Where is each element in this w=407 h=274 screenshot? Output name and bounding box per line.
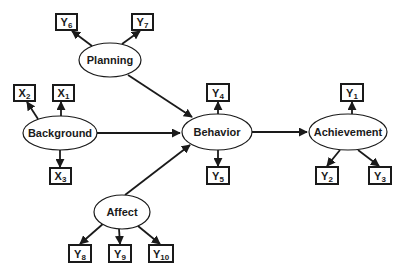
arrow-planning-to-y6 bbox=[72, 31, 92, 46]
arrow-achievement-to-y3 bbox=[358, 150, 379, 166]
indicator-node-y6: Y6 bbox=[56, 14, 77, 30]
latent-node-planning: Planning bbox=[79, 43, 141, 77]
latent-label: Background bbox=[28, 127, 92, 139]
latent-node-achievement: Achievement bbox=[309, 114, 387, 150]
indicator-node-y2: Y2 bbox=[316, 167, 338, 184]
indicator-node-y1: Y1 bbox=[341, 84, 363, 101]
arrow-affect-to-y8 bbox=[80, 223, 104, 244]
latent-variables-layer: PlanningBackgroundBehaviorAchievementAff… bbox=[23, 43, 387, 229]
latent-node-background: Background bbox=[23, 116, 97, 150]
indicator-node-y7: Y7 bbox=[132, 14, 153, 30]
arrow-background-to-x2 bbox=[27, 102, 38, 119]
sem-diagram: PlanningBackgroundBehaviorAchievementAff… bbox=[0, 0, 407, 274]
latent-label: Affect bbox=[106, 206, 138, 218]
indicator-node-x3: X3 bbox=[50, 168, 71, 184]
latent-node-behavior: Behavior bbox=[182, 114, 252, 150]
indicator-node-y3: Y3 bbox=[369, 167, 391, 184]
latent-label: Behavior bbox=[193, 126, 241, 138]
arrow-affect-to-behavior bbox=[125, 145, 190, 195]
latent-node-affect: Affect bbox=[94, 195, 150, 229]
arrow-affect-to-y9 bbox=[119, 229, 120, 244]
latent-label: Achievement bbox=[314, 126, 383, 138]
indicator-node-y4: Y4 bbox=[207, 84, 229, 101]
arrow-planning-to-behavior bbox=[128, 75, 192, 117]
indicator-node-x2: X2 bbox=[14, 85, 35, 101]
latent-label: Planning bbox=[87, 54, 133, 66]
indicator-node-y10: Y10 bbox=[149, 245, 173, 262]
arrow-planning-to-y7 bbox=[122, 31, 140, 44]
indicator-node-y9: Y9 bbox=[109, 245, 131, 262]
arrow-affect-to-y10 bbox=[138, 226, 160, 244]
indicator-node-x1: X1 bbox=[53, 85, 74, 101]
indicator-node-y8: Y8 bbox=[69, 245, 91, 262]
indicator-node-y5: Y5 bbox=[207, 167, 229, 184]
arrow-achievement-to-y2 bbox=[327, 150, 340, 166]
